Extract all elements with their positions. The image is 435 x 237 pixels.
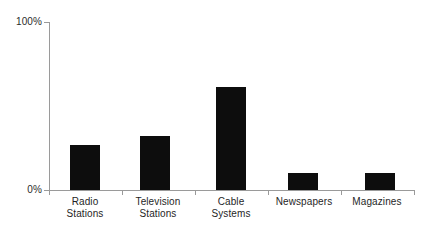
bar-3 (288, 173, 318, 190)
x-axis-label-2-line2: Systems (181, 208, 281, 220)
bar-1 (140, 136, 170, 190)
x-axis-label-4-line1: Magazines (327, 196, 427, 208)
bar-chart: 100% 0% RadioStationsTelevisionStationsC… (0, 0, 435, 237)
bar-0 (70, 145, 100, 190)
x-axis-label-4: Magazines (327, 196, 427, 208)
bar-4 (365, 173, 395, 190)
bar-2 (216, 87, 246, 190)
